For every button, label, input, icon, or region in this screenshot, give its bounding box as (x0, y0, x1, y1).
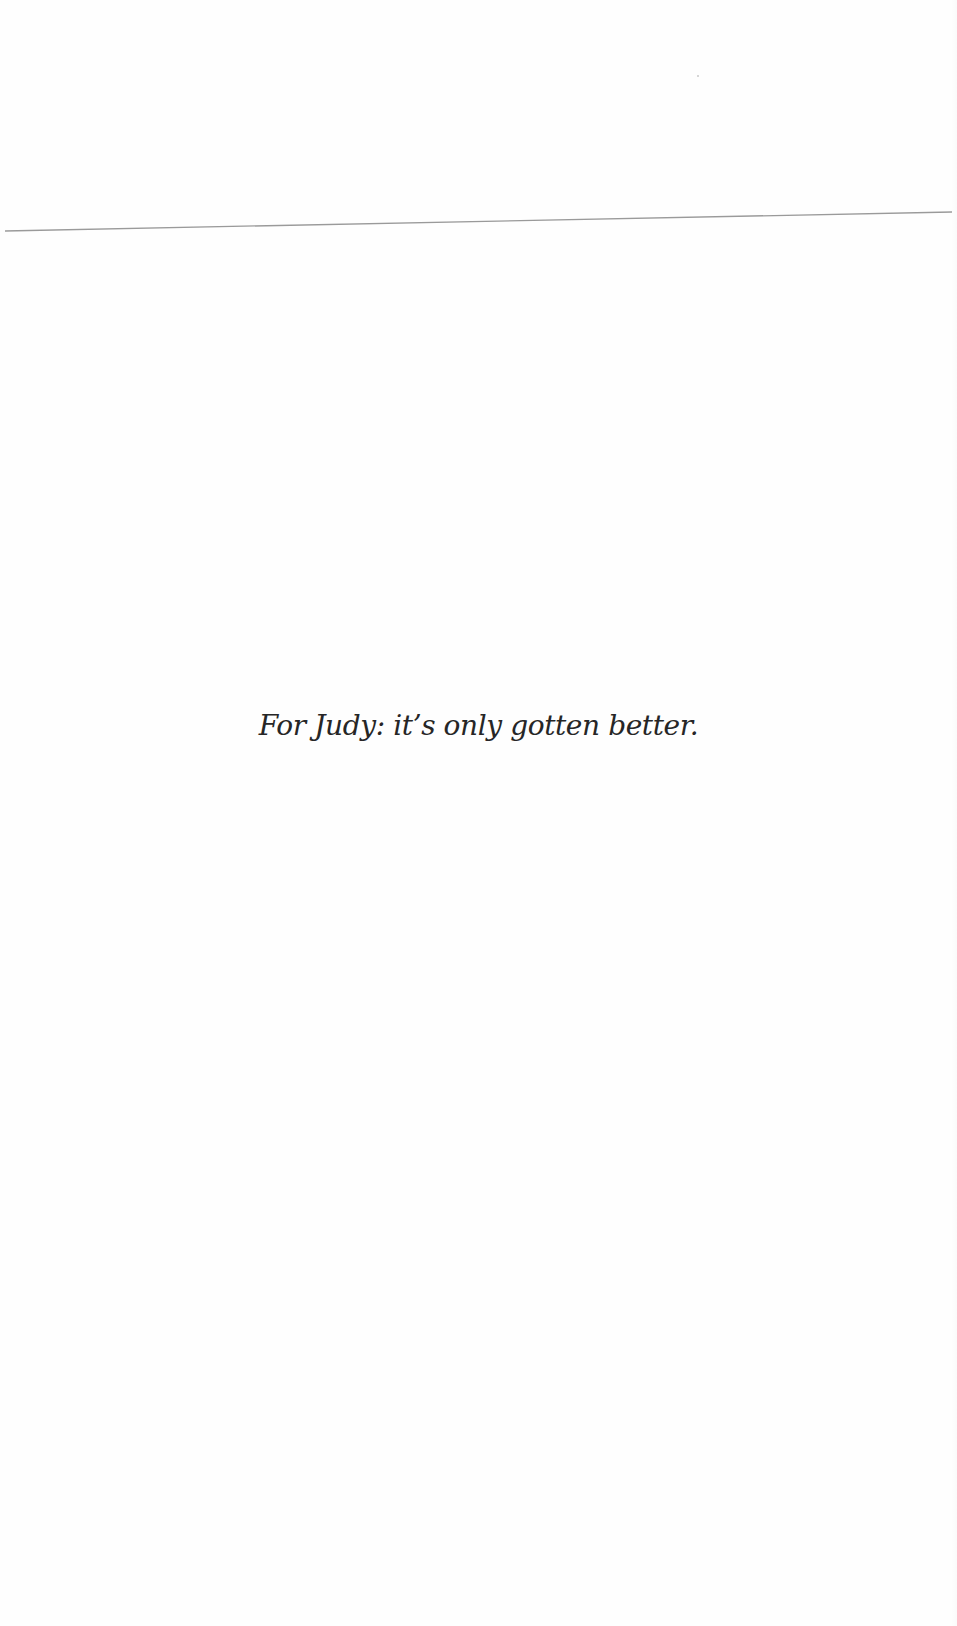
dedication-text: For Judy: it’s only gotten better. (0, 712, 957, 740)
page-edge-shadow (951, 0, 957, 1626)
horizontal-rule (0, 200, 957, 240)
dust-speck (697, 75, 699, 77)
